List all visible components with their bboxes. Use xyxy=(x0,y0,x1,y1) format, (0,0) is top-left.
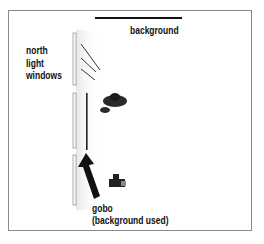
window-pane-3 xyxy=(73,155,76,205)
windows-label-line2: light xyxy=(26,58,44,69)
windows-label-line1: north xyxy=(26,45,48,56)
gobo-label-line1: gobo xyxy=(92,203,113,214)
background-line xyxy=(95,17,182,19)
gobo-label-line2: (background used) xyxy=(92,215,169,226)
subject-icon xyxy=(100,93,127,113)
camera-icon xyxy=(109,174,126,187)
north-light-windows xyxy=(73,33,76,205)
windows-label-line3: windows xyxy=(26,70,62,81)
gobo-bar xyxy=(86,93,88,150)
background-label: background xyxy=(130,25,179,36)
window-pane-1 xyxy=(73,33,76,85)
lighting-diagram xyxy=(0,0,264,244)
window-pane-2 xyxy=(73,93,76,148)
